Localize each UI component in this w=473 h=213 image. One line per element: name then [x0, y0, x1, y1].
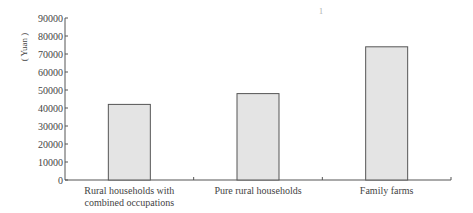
y-tick-label: 30000 [38, 121, 63, 132]
y-tick-label: 90000 [38, 13, 63, 24]
y-tick-label: 20000 [38, 139, 63, 150]
y-tick-label: 60000 [38, 67, 63, 78]
bar [108, 104, 150, 180]
x-category-label: Family farms [360, 185, 414, 196]
y-tick-label: 40000 [38, 103, 63, 114]
y-axis-label: ( Yuan ) [19, 33, 29, 62]
y-tick-label: 50000 [38, 85, 63, 96]
x-category-label: Pure rural households [214, 185, 301, 196]
bar [237, 94, 279, 180]
bar [366, 47, 408, 180]
y-tick-label: 0 [58, 175, 63, 186]
y-tick-label: 10000 [38, 157, 63, 168]
y-tick-label: 70000 [38, 49, 63, 60]
annotation-mark: 1 [319, 7, 323, 16]
x-category-label: combined occupations [84, 197, 174, 208]
x-category-label: Rural households with [84, 185, 174, 196]
bar-chart: 0100002000030000400005000060000700008000… [0, 0, 473, 213]
y-tick-label: 80000 [38, 31, 63, 42]
